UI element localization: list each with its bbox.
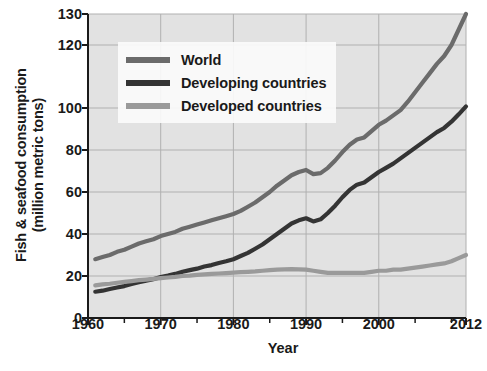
y-tick-label: 130 [36, 6, 82, 22]
y-tick-label: 120 [36, 37, 82, 53]
y-tick-label: 20 [36, 268, 82, 284]
legend-item-0: World [126, 48, 326, 71]
x-tick-label: 2012 [436, 316, 487, 332]
x-tick-label: 1990 [276, 316, 336, 332]
legend-item-1: Developing countries [126, 71, 326, 94]
y-axis-title-line1: Fish & seafood consumption [13, 68, 29, 262]
x-axis-title: Year [88, 340, 478, 356]
legend-label: World [181, 52, 221, 68]
x-tick-label: 2000 [349, 316, 409, 332]
legend-item-2: Developed countries [126, 94, 326, 117]
legend-label: Developed countries [181, 98, 322, 114]
legend-swatch-icon [126, 80, 170, 86]
legend-label: Developing countries [181, 75, 326, 91]
chart-legend: WorldDeveloping countriesDeveloped count… [118, 42, 336, 123]
legend-swatch-icon [126, 103, 170, 109]
x-tick-label: 1970 [131, 316, 191, 332]
y-tick-label: 80 [36, 142, 82, 158]
x-axis-tick-labels: 196019701980199020002012 [0, 316, 482, 342]
legend-swatch-icon [126, 57, 170, 63]
y-tick-label: 100 [36, 100, 82, 116]
x-tick-label: 1960 [58, 316, 118, 332]
y-tick-label: 40 [36, 226, 82, 242]
y-tick-label: 60 [36, 184, 82, 200]
x-tick-label: 1980 [203, 316, 263, 332]
